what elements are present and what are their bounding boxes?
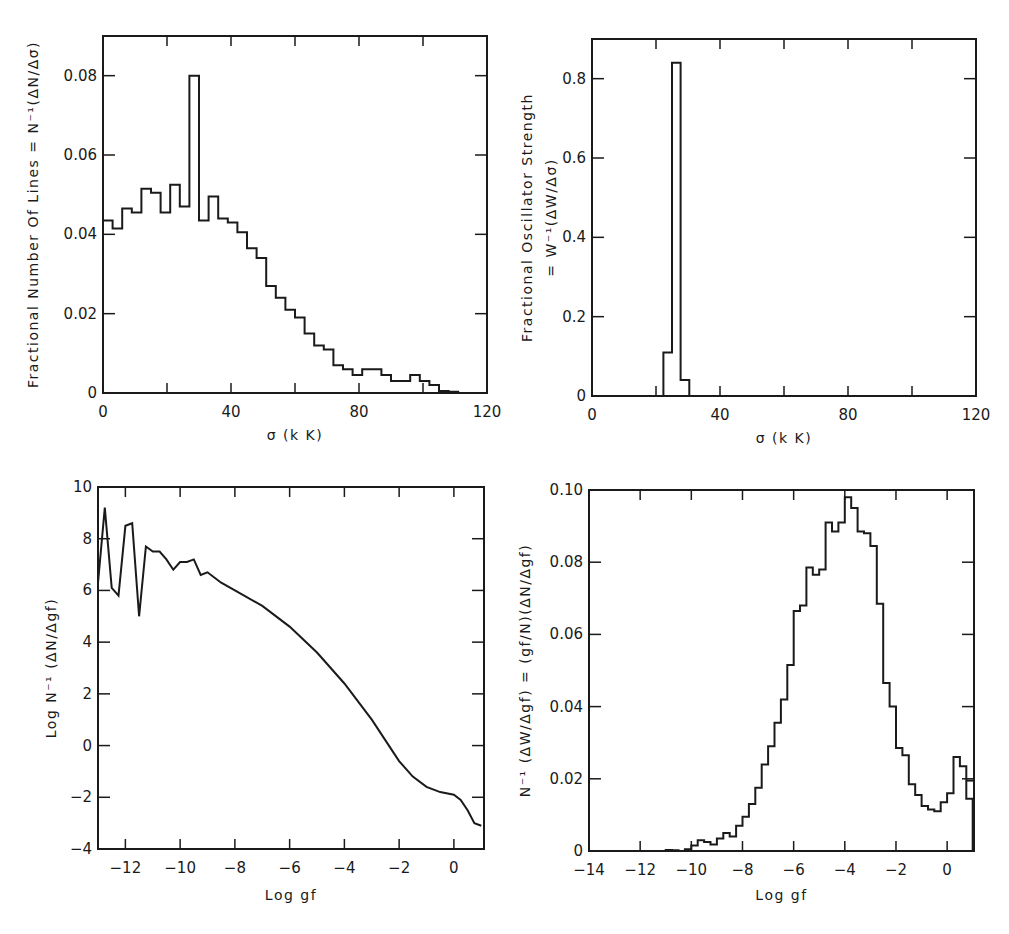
x-axis-label: Log gf (755, 887, 807, 903)
x-tick-label: 0 (449, 859, 459, 877)
y-tick-label: 0.10 (550, 481, 583, 499)
y-tick-label: 0.2 (562, 308, 586, 326)
y-tick-label: 0.04 (64, 225, 97, 243)
y-tick-label: 0.04 (550, 698, 583, 716)
chart-panel-top-right: 0408012000.20.40.60.8σ (k K)Fractional O… (519, 39, 990, 446)
y-tick-label: 0.4 (562, 228, 586, 246)
y-tick-label: 0 (82, 737, 92, 755)
data-series (98, 508, 481, 826)
chart-panel-bottom-right: −14−12−10−8−6−4−2000.020.040.060.080.10L… (517, 481, 974, 903)
y-tick-label: 0.02 (64, 305, 97, 323)
plot-frame (103, 36, 487, 393)
chart-panel-bottom-left: −12−10−8−6−4−20−4−20246810Log gfLog N⁻¹ … (43, 478, 484, 903)
x-tick-label: 80 (838, 406, 857, 424)
x-tick-label: −2 (885, 861, 907, 879)
x-axis-label: Log gf (265, 887, 317, 903)
x-tick-label: 120 (473, 403, 502, 421)
y-tick-label: 0 (576, 387, 586, 405)
x-tick-label: −14 (573, 861, 605, 879)
y-tick-label: 0.08 (550, 553, 583, 571)
y-tick-label: 0 (573, 842, 583, 860)
x-axis-label: σ (k K) (267, 427, 324, 443)
y-axis-label: N⁻¹ (ΔW/Δgf) = (gf/N)(ΔN/Δgf) (517, 544, 533, 798)
y-tick-label: 0.8 (562, 70, 586, 88)
y-axis-label-line2: = W⁻¹(ΔW/Δσ) (543, 158, 559, 277)
y-tick-label: 4 (82, 633, 92, 651)
x-tick-label: −6 (279, 859, 301, 877)
data-series (589, 497, 974, 851)
x-tick-label: 0 (942, 861, 952, 879)
plot-frame (589, 490, 974, 851)
x-axis-label: σ (k K) (756, 430, 813, 446)
y-tick-label: −2 (70, 788, 92, 806)
y-axis-label: Fractional Oscillator Strength (519, 93, 535, 342)
y-axis-label: Log N⁻¹ (ΔN/Δgf) (43, 598, 59, 738)
x-tick-label: −2 (388, 859, 410, 877)
x-tick-label: −6 (783, 861, 805, 879)
y-tick-label: 0.08 (64, 67, 97, 85)
y-tick-label: 0.02 (550, 770, 583, 788)
x-tick-label: −8 (731, 861, 753, 879)
x-tick-label: 40 (221, 403, 240, 421)
x-tick-label: −12 (624, 861, 656, 879)
x-tick-label: 0 (587, 406, 597, 424)
plot-frame (592, 39, 976, 396)
x-tick-label: 40 (710, 406, 729, 424)
chart-panel-top-left: 0408012000.020.040.060.08σ (k K)Fraction… (25, 36, 501, 443)
x-tick-label: 0 (98, 403, 108, 421)
y-tick-label: 0.06 (64, 146, 97, 164)
data-series (103, 76, 487, 393)
x-tick-label: −8 (224, 859, 246, 877)
x-tick-label: −10 (675, 861, 707, 879)
x-tick-label: −10 (164, 859, 196, 877)
x-tick-label: −12 (110, 859, 142, 877)
x-tick-label: 80 (349, 403, 368, 421)
plot-frame (98, 487, 484, 849)
y-tick-label: 0.06 (550, 625, 583, 643)
x-tick-label: −4 (834, 861, 856, 879)
y-tick-label: 0 (87, 384, 97, 402)
y-tick-label: 8 (82, 530, 92, 548)
figure-canvas: 0408012000.020.040.060.08σ (k K)Fraction… (0, 0, 1009, 934)
data-series (592, 63, 976, 396)
y-tick-label: 2 (82, 685, 92, 703)
x-tick-label: 120 (962, 406, 991, 424)
y-axis-label: Fractional Number Of Lines = N⁻¹(ΔN/Δσ) (25, 41, 41, 388)
y-tick-label: 10 (73, 478, 92, 496)
y-tick-label: −4 (70, 840, 92, 858)
x-tick-label: −4 (333, 859, 355, 877)
y-tick-label: 6 (82, 581, 92, 599)
y-tick-label: 0.6 (562, 149, 586, 167)
